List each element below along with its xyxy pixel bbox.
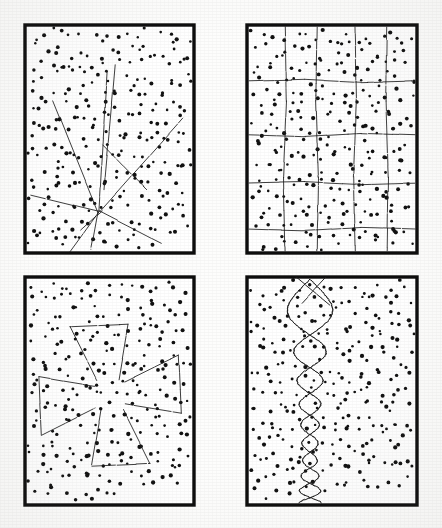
panel-grid	[0, 0, 442, 528]
panel-top-right	[221, 0, 442, 264]
panel-top-right-canvas	[221, 0, 442, 264]
panel-bottom-left-canvas	[0, 264, 221, 528]
panel-top-left-canvas	[0, 0, 221, 264]
panel-bottom-right	[221, 264, 442, 528]
panel-top-left	[0, 0, 221, 264]
panel-bottom-right-canvas	[221, 264, 442, 528]
figure-plate	[0, 0, 442, 528]
panel-frame-top-right	[247, 25, 417, 253]
panel-bottom-left	[0, 264, 221, 528]
